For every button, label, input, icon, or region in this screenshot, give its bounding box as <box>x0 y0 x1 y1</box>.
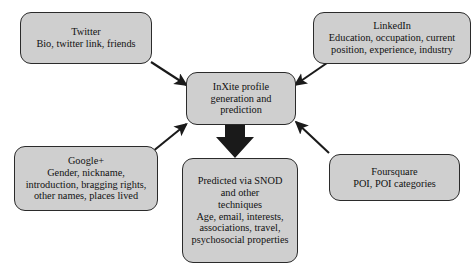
edge-linkedin-to-center <box>295 63 327 85</box>
edge-googleplus-to-center <box>152 124 187 152</box>
node-googleplus[interactable]: Google+ Gender, nickname, introduction, … <box>14 146 158 211</box>
node-center-inxite[interactable]: InXite profile generation and prediction <box>186 72 296 125</box>
node-linkedin[interactable]: LinkedIn Education, occupation, current … <box>313 12 471 64</box>
node-predicted-line-0: Predicted via SNOD <box>187 175 293 187</box>
node-linkedin-line-2: position, experience, industry <box>318 44 466 56</box>
node-twitter-line-1: Bio, twitter link, friends <box>25 38 147 50</box>
edge-twitter-to-center <box>151 62 187 85</box>
node-twitter-title: Twitter <box>25 26 147 38</box>
node-googleplus-line-2: introduction, bragging rights, <box>19 179 153 191</box>
diagram-canvas: Twitter Bio, twitter link, friends Linke… <box>0 0 476 278</box>
edge-foursquare-to-center <box>296 122 329 153</box>
node-linkedin-line-1: Education, occupation, current <box>318 32 466 44</box>
node-googleplus-line-1: Gender, nickname, <box>19 167 153 179</box>
node-predicted-line-4: associations, travel, <box>187 222 293 234</box>
node-googleplus-line-3: other names, places lived <box>19 190 153 202</box>
node-predicted-output[interactable]: Predicted via SNOD and other techniques … <box>182 158 298 263</box>
node-foursquare[interactable]: Foursquare POI, POI categories <box>329 154 460 201</box>
node-predicted-line-5: psychosocial properties <box>187 234 293 246</box>
edge-center-to-predicted <box>216 122 254 158</box>
node-foursquare-line-1: POI, POI categories <box>334 178 455 190</box>
node-center-line-2: prediction <box>191 104 291 116</box>
node-googleplus-title: Google+ <box>19 155 153 167</box>
node-center-line-1: generation and <box>191 93 291 105</box>
node-predicted-line-3: Age, email, interests, <box>187 211 293 223</box>
node-linkedin-title: LinkedIn <box>318 20 466 32</box>
node-twitter[interactable]: Twitter Bio, twitter link, friends <box>20 12 152 64</box>
node-predicted-line-2: techniques <box>187 199 293 211</box>
node-foursquare-title: Foursquare <box>334 166 455 178</box>
node-predicted-line-1: and other <box>187 187 293 199</box>
node-center-line-0: InXite profile <box>191 81 291 93</box>
